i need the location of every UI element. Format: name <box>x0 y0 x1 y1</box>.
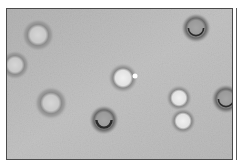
cell <box>34 86 68 120</box>
bright-speck <box>133 74 138 79</box>
cell <box>89 105 119 135</box>
cell <box>166 85 193 112</box>
cell <box>170 108 197 135</box>
micrograph-canvas <box>7 9 232 159</box>
specks-layer <box>133 74 138 79</box>
micrograph-photo <box>6 8 233 160</box>
cell <box>21 18 55 52</box>
frame-edge-line <box>236 8 237 160</box>
cell <box>181 13 211 43</box>
